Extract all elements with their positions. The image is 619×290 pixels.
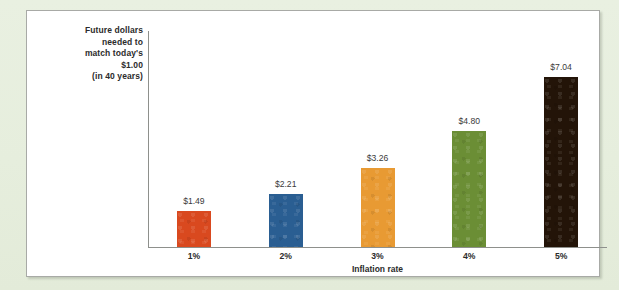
bar-value-label: $4.80 bbox=[430, 116, 508, 126]
x-axis-tick-label: 5% bbox=[515, 251, 607, 261]
y-axis-label: Future dollarsneeded tomatch today's$1.0… bbox=[55, 25, 143, 83]
bar[interactable]: $1.49 bbox=[177, 211, 211, 247]
y-axis-label-line: match today's bbox=[55, 48, 143, 60]
x-axis-tick-label: 2% bbox=[240, 251, 332, 261]
y-axis-label-line: $1.00 bbox=[55, 60, 143, 72]
bar-value-label: $7.04 bbox=[522, 62, 600, 72]
bar[interactable]: $3.26 bbox=[361, 168, 395, 247]
chart-panel: Future dollarsneeded tomatch today's$1.0… bbox=[26, 10, 600, 277]
bar-value-label: $1.49 bbox=[155, 196, 233, 206]
plot-area: $1.49$2.21$3.26$4.80$7.04 1%2%3%4%5% bbox=[148, 31, 607, 247]
x-axis-tick-label: 4% bbox=[423, 251, 515, 261]
bar-fill bbox=[269, 194, 303, 247]
x-axis-line bbox=[148, 247, 607, 248]
x-axis-tick-label: 1% bbox=[148, 251, 240, 261]
x-axis-title: Inflation rate bbox=[148, 264, 607, 274]
x-axis-tick-label: 3% bbox=[332, 251, 424, 261]
bar-value-label: $2.21 bbox=[247, 179, 325, 189]
y-axis-label-line: Future dollars bbox=[55, 25, 143, 37]
bar-fill bbox=[544, 77, 578, 247]
bar[interactable]: $7.04 bbox=[544, 77, 578, 247]
y-axis-label-line: (in 40 years) bbox=[55, 71, 143, 83]
bar-fill bbox=[452, 131, 486, 247]
bar[interactable]: $4.80 bbox=[452, 131, 486, 247]
chart-figure: Future dollarsneeded tomatch today's$1.0… bbox=[0, 0, 619, 290]
y-axis-line bbox=[148, 31, 149, 247]
bar-fill bbox=[177, 211, 211, 247]
bar-value-label: $3.26 bbox=[339, 153, 417, 163]
bar[interactable]: $2.21 bbox=[269, 194, 303, 247]
y-axis-label-line: needed to bbox=[55, 37, 143, 49]
bar-fill bbox=[361, 168, 395, 247]
